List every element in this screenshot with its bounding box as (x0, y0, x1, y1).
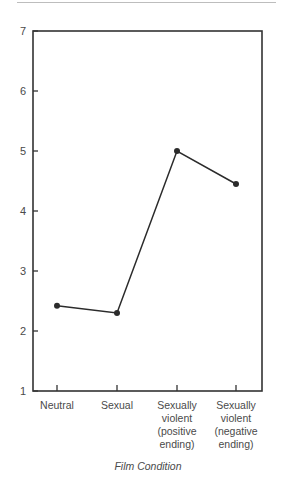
x-category-label: Sexual (101, 399, 133, 411)
data-point-marker (174, 148, 180, 154)
plot-frame (33, 31, 262, 391)
data-point-marker (54, 303, 60, 309)
y-tick-label: 5 (20, 145, 26, 157)
y-tick-label: 7 (20, 25, 26, 37)
x-axis: NeutralSexualSexuallyviolent(positiveend… (40, 385, 258, 450)
data-series (54, 148, 239, 316)
x-category-label: Sexuallyviolent(positiveending) (157, 399, 197, 450)
y-tick-label: 2 (20, 325, 26, 337)
y-tick-label: 1 (20, 385, 26, 397)
x-category-label: Sexuallyviolent(negativeending) (214, 399, 257, 450)
y-tick-label: 6 (20, 85, 26, 97)
line-chart: 1234567 NeutralSexualSexuallyviolent(pos… (0, 0, 282, 489)
y-tick-label: 4 (20, 205, 26, 217)
data-point-marker (114, 310, 120, 316)
y-axis: 1234567 (20, 25, 38, 397)
data-line (57, 151, 236, 313)
x-axis-title: Film Condition (114, 460, 181, 472)
data-point-marker (233, 181, 239, 187)
x-category-label: Neutral (40, 399, 74, 411)
y-tick-label: 3 (20, 265, 26, 277)
